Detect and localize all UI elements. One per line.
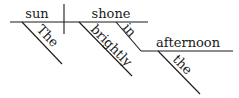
sentence-diagram: sun shone The brightly in afternoon the [0,0,239,98]
object-of-preposition-word: afternoon [156,35,221,50]
article-the-word: The [34,22,62,50]
article-the-object-word: the [170,52,196,78]
preposition-word: in [120,20,140,40]
subject-word: sun [25,6,49,21]
verb-word: shone [92,6,131,21]
